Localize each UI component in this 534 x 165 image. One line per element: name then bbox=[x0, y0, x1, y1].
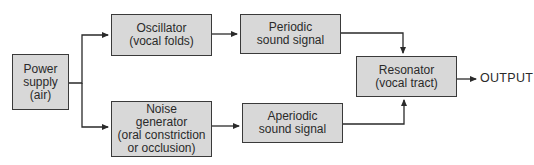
aperiodic-signal-box: Aperiodic sound signal bbox=[242, 103, 343, 143]
noise-generator-label-line-4: or occlusion) bbox=[117, 142, 205, 155]
resonator-box: Resonator (vocal tract) bbox=[356, 56, 457, 97]
output-label: OUTPUT bbox=[480, 71, 533, 85]
oscillator-label-line-2: (vocal folds) bbox=[129, 35, 194, 48]
noise-generator-box: Noise generator (oral constriction or oc… bbox=[111, 101, 212, 157]
resonator-label-line-2: (vocal tract) bbox=[375, 77, 438, 90]
periodic-signal-box: Periodic sound signal bbox=[240, 14, 341, 54]
resonator-label-line-1: Resonator bbox=[375, 64, 438, 77]
oscillator-box: Oscillator (vocal folds) bbox=[111, 14, 212, 56]
power-supply-label-line-2: supply bbox=[23, 76, 58, 89]
edge-power-to-noise-generator bbox=[82, 83, 108, 127]
power-supply-label-line-1: Power bbox=[23, 63, 58, 76]
edge-periodic-to-resonator bbox=[341, 33, 403, 53]
edge-aperiodic-to-resonator bbox=[343, 100, 404, 124]
periodic-signal-label-line-2: sound signal bbox=[257, 34, 324, 47]
edge-power-to-oscillator bbox=[69, 35, 108, 83]
power-supply-box: Power supply (air) bbox=[12, 54, 69, 110]
aperiodic-signal-label-line-2: sound signal bbox=[259, 123, 326, 136]
power-supply-label-line-3: (air) bbox=[23, 89, 58, 102]
